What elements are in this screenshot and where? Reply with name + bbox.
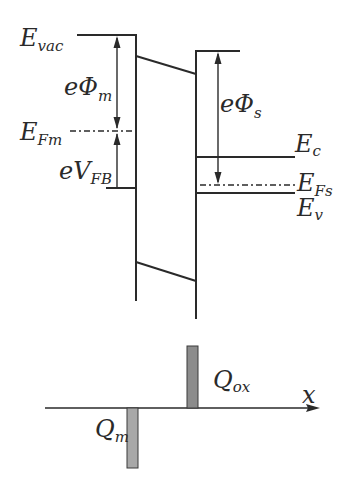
label-e-v-fb: eVFB <box>59 157 112 188</box>
label-e-fm: EFm <box>19 118 62 149</box>
label-e-phi-m: eΦm <box>64 73 112 105</box>
label-q-ox: Qox <box>213 366 251 396</box>
charge-diagram <box>45 346 320 468</box>
label-x-axis: x <box>302 381 316 409</box>
phi-s-arrow <box>215 52 222 184</box>
oxide-valence-band <box>136 262 196 281</box>
label-e-c: Ec <box>294 130 322 160</box>
oxide-region <box>136 35 196 319</box>
q-ox-bar <box>187 346 198 408</box>
arrow-down-icon <box>114 117 121 129</box>
arrow-up-icon <box>215 52 222 64</box>
oxide-conduction-band <box>136 56 196 74</box>
band-diagram: Evac eΦm EFm eVFB eΦs Ec EFs Ev Qox Qm x <box>0 0 341 484</box>
arrow-up-icon <box>114 36 121 48</box>
arrow-up-icon <box>114 133 121 145</box>
label-e-vac: Evac <box>19 24 64 55</box>
label-e-phi-s: eΦs <box>220 90 262 122</box>
arrow-down-icon <box>215 172 222 184</box>
semiconductor-region <box>196 51 295 193</box>
label-q-m: Qm <box>95 415 129 446</box>
v-fb-arrow <box>114 133 121 188</box>
phi-m-arrow <box>114 36 121 129</box>
